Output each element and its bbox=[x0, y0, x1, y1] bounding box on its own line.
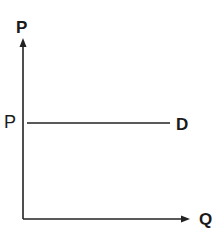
curve-label: D bbox=[176, 116, 188, 133]
y-axis-label: P bbox=[16, 19, 27, 36]
x-axis-label: Q bbox=[199, 211, 212, 228]
y-axis-arrow-icon bbox=[20, 38, 27, 47]
x-axis-arrow-icon bbox=[181, 216, 190, 223]
price-tick-label: P bbox=[4, 113, 16, 131]
